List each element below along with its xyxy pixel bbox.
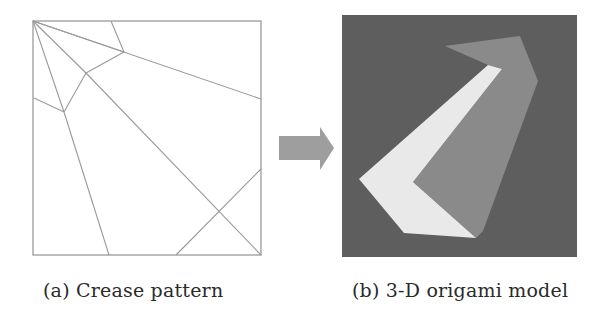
crease-line: [111, 21, 124, 52]
crease-line: [33, 21, 64, 112]
crease-lines: [33, 21, 261, 255]
crease-line: [33, 21, 124, 52]
right-arrow-icon: [279, 127, 334, 170]
origami-figure: (a) Crease pattern (b) 3-D origami model: [0, 0, 613, 318]
caption-crease-pattern: (a) Crease pattern: [43, 279, 223, 301]
crease-line: [86, 73, 261, 255]
crease-line: [64, 73, 86, 112]
crease-line: [33, 21, 86, 73]
caption-origami-model: (b) 3-D origami model: [352, 279, 568, 301]
origami-model-panel: [342, 15, 577, 257]
crease-pattern-panel: [33, 21, 261, 255]
crease-line: [86, 52, 124, 73]
figure-canvas: [0, 0, 613, 318]
crease-line: [64, 112, 109, 255]
